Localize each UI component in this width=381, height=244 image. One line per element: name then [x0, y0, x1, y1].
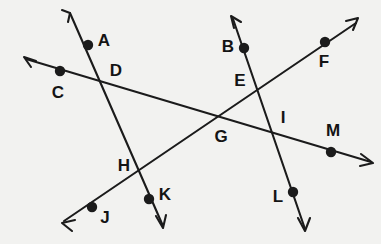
- geometry-figure: ABCDEFGHIJKLM: [0, 0, 381, 244]
- line-through-J-H-G-E-F: [64, 23, 356, 221]
- point-label-a: A: [98, 31, 110, 50]
- lines-group: [26, 13, 371, 229]
- line-J-F-arrow-start-icon: [62, 220, 75, 231]
- line-through-C-D-G-I-M: [26, 59, 371, 162]
- point-dot-l: [288, 187, 298, 197]
- point-dot-j: [87, 202, 97, 212]
- point-label-h: H: [118, 156, 130, 175]
- point-label-m: M: [326, 121, 340, 140]
- point-label-g: G: [214, 127, 227, 146]
- point-dot-f: [320, 37, 330, 47]
- point-labels-group: ABCDEFGHIJKLM: [52, 31, 340, 227]
- diagram-canvas: ABCDEFGHIJKLM: [0, 0, 381, 244]
- point-dot-c: [55, 66, 65, 76]
- point-label-b: B: [222, 37, 234, 56]
- point-label-l: L: [273, 187, 283, 206]
- point-label-j: J: [100, 208, 109, 227]
- point-label-k: K: [159, 185, 172, 204]
- points-group: [55, 37, 336, 212]
- point-dot-k: [144, 194, 154, 204]
- point-dot-m: [326, 147, 336, 157]
- point-dot-b: [239, 43, 249, 53]
- point-dot-a: [83, 40, 93, 50]
- line-A-K-arrow-start-icon: [62, 10, 70, 22]
- point-label-d: D: [110, 61, 122, 80]
- point-label-f: F: [319, 52, 329, 71]
- point-label-i: I: [281, 108, 286, 127]
- point-label-c: C: [52, 83, 64, 102]
- point-label-e: E: [234, 71, 245, 90]
